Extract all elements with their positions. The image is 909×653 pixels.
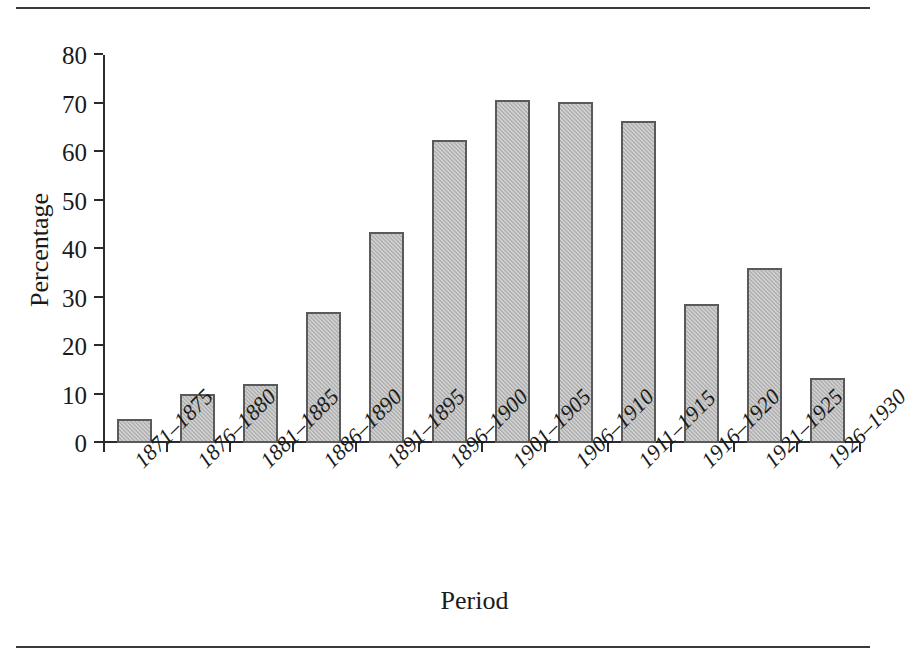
bar-series (103, 55, 859, 443)
y-tick-label: 30 (62, 285, 87, 310)
y-tick-label: 70 (62, 91, 87, 116)
y-tick: 60 (94, 150, 103, 152)
y-tick: 50 (94, 199, 103, 201)
x-axis-tick-labels: 1871–18751876–18801881–18851886–18901891… (103, 455, 859, 585)
y-axis-title-text: Percentage (25, 193, 55, 307)
y-tick-label: 40 (62, 237, 87, 262)
y-tick: 10 (94, 393, 103, 395)
y-tick-label: 50 (62, 188, 87, 213)
y-tick: 30 (94, 296, 103, 298)
y-tick: 70 (94, 102, 103, 104)
y-tick: 80 (94, 53, 103, 55)
y-tick-label: 0 (75, 431, 88, 456)
y-tick: 40 (94, 247, 103, 249)
plot-area: 01020304050607080 (103, 55, 859, 443)
y-tick-label: 20 (62, 334, 87, 359)
y-axis-title: Percentage (18, 150, 62, 350)
x-axis-title: Period (0, 586, 877, 616)
y-tick-label: 60 (62, 140, 87, 165)
x-axis-title-text: Period (441, 586, 509, 615)
y-tick-label: 80 (62, 43, 87, 68)
x-tick (103, 443, 105, 452)
y-tick: 20 (94, 344, 103, 346)
top-horizontal-rule (16, 7, 870, 9)
y-tick: 0 (94, 441, 103, 443)
bottom-horizontal-rule (16, 646, 870, 648)
y-tick-label: 10 (62, 382, 87, 407)
